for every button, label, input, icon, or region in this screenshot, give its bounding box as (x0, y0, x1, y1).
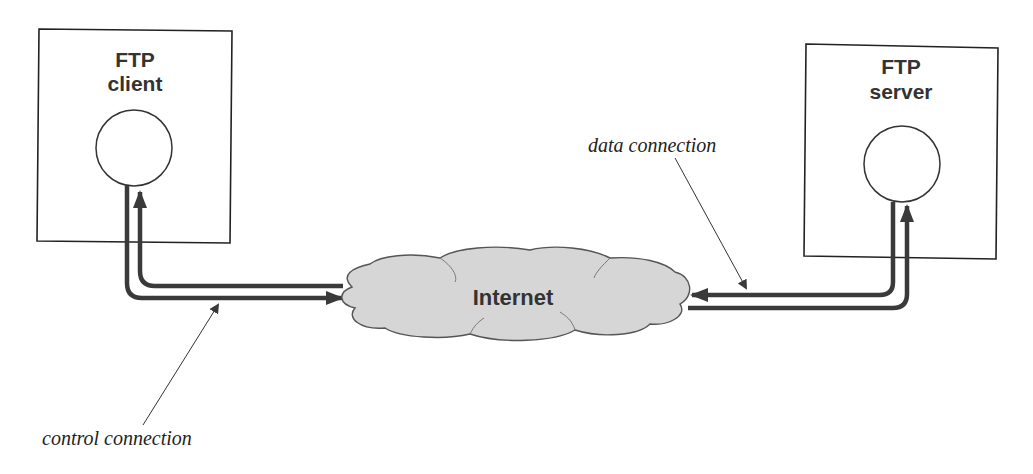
control-connection-pointer (143, 305, 218, 425)
client-process-circle (96, 110, 172, 186)
control-connection-label: control connection (42, 427, 192, 449)
ftp-client-node: FTP client (37, 29, 232, 243)
server-process-circle (864, 126, 940, 202)
ftp-server-node: FTP server (804, 44, 998, 259)
internet-cloud: Internet (342, 247, 690, 340)
control-connection-annotation: control connection (42, 305, 218, 449)
data-connection-label: data connection (588, 134, 716, 156)
client-label-line2: client (108, 72, 163, 95)
client-inbound-line (140, 192, 343, 286)
server-outbound-line (692, 202, 893, 295)
internet-label: Internet (473, 285, 554, 310)
server-label-line2: server (869, 80, 932, 103)
client-label-line1: FTP (115, 48, 155, 71)
server-label-line1: FTP (881, 55, 921, 78)
ftp-diagram: FTP client FTP server Internet control c… (0, 0, 1033, 474)
data-connection-pointer (675, 158, 746, 288)
server-connection-lines (688, 202, 907, 308)
